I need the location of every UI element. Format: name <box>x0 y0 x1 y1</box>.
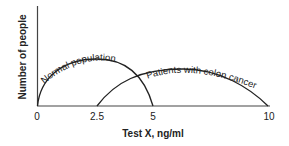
x-tick-0: 0 <box>34 111 40 122</box>
x-tick-5: 5 <box>150 111 156 122</box>
x-axis-label: Test X, ng/ml <box>122 128 184 139</box>
x-tick-2.5: 2.5 <box>90 111 104 122</box>
chart: Normal population Patients with colon ca… <box>0 0 289 146</box>
patients-label: Patients with colon cancer <box>145 64 259 91</box>
normal-population-label: Normal population <box>38 51 116 85</box>
y-axis-label: Number of people <box>17 14 28 99</box>
x-tick-10: 10 <box>263 111 275 122</box>
